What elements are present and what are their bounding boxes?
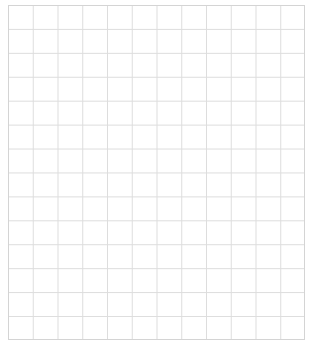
grid-border [8,5,305,340]
grid-lines [8,5,305,340]
graph-paper-sheet[interactable] [8,5,305,340]
page-root [0,0,314,356]
